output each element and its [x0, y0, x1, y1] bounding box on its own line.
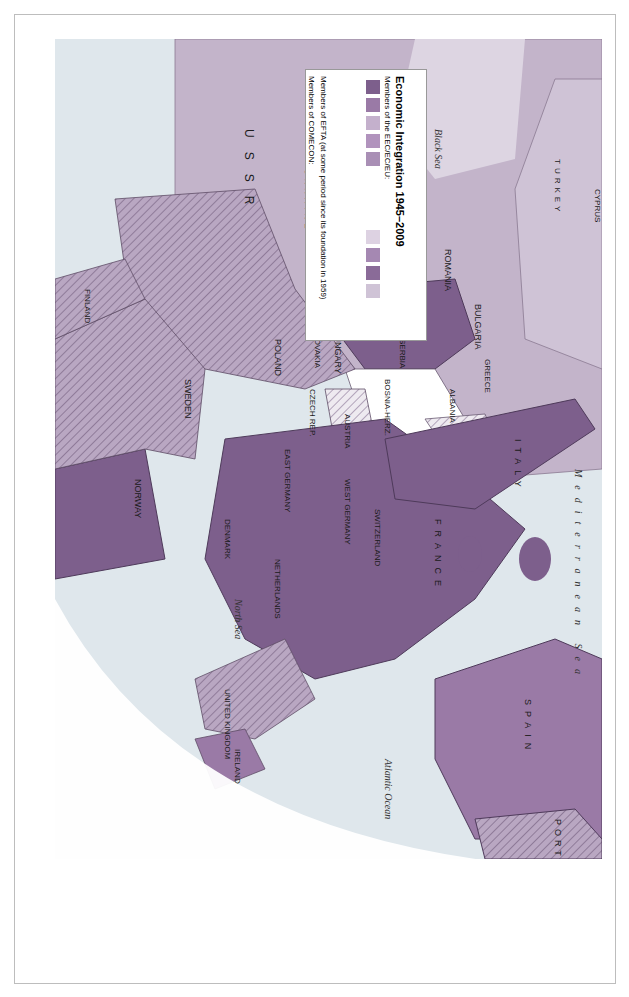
swatch-1981	[366, 116, 380, 130]
svg-text:USSR: USSR	[242, 129, 256, 218]
svg-text:WEST GERMANY: WEST GERMANY	[343, 479, 352, 545]
svg-text:PORTUGAL: PORTUGAL	[553, 819, 563, 859]
svg-text:Atlantic Ocean: Atlantic Ocean	[383, 758, 394, 819]
swatch-candidate	[366, 284, 380, 298]
svg-text:FINLAND: FINLAND	[83, 289, 92, 323]
svg-text:IRELAND: IRELAND	[233, 749, 242, 784]
svg-text:NETHERLANDS: NETHERLANDS	[273, 559, 282, 619]
swatch-2007	[366, 266, 380, 280]
svg-text:BOSNIA-HERZ.: BOSNIA-HERZ.	[383, 379, 392, 436]
svg-text:BULGARIA: BULGARIA	[473, 304, 483, 350]
legend-comecon-header: Members of COMECON:	[307, 76, 316, 336]
svg-text:GREECE: GREECE	[483, 359, 492, 393]
legend-eec-header: Members of the EEC/EC/EU:	[383, 76, 392, 336]
europe-map[interactable]: ROMANIA BULGARIA SERBIA BOSNIA-HERZ. ALB…	[55, 39, 602, 859]
svg-text:EAST GERMANY: EAST GERMANY	[283, 449, 292, 513]
legend-title: Economic Integration 1945–2009	[394, 76, 406, 336]
svg-text:POLAND: POLAND	[273, 339, 283, 377]
svg-text:DENMARK: DENMARK	[223, 519, 232, 560]
svg-text:ALBANIA: ALBANIA	[448, 389, 457, 423]
svg-text:SPAIN: SPAIN	[523, 699, 533, 755]
svg-text:ROMANIA: ROMANIA	[443, 249, 453, 291]
svg-text:Mediterranean Sea: Mediterranean Sea	[573, 468, 584, 682]
legend-efta: Members of EFTA (at some period since it…	[319, 76, 328, 336]
swatch-1995	[366, 230, 380, 244]
svg-text:SERBIA: SERBIA	[398, 339, 407, 369]
svg-text:UNITED KINGDOM: UNITED KINGDOM	[223, 689, 232, 760]
swatch-1973	[366, 98, 380, 112]
svg-text:ITALY: ITALY	[513, 439, 523, 493]
svg-text:AUSTRIA: AUSTRIA	[343, 414, 352, 449]
svg-text:Black Sea: Black Sea	[433, 129, 444, 169]
svg-text:North Sea: North Sea	[233, 598, 244, 639]
map-frame: ROMANIA BULGARIA SERBIA BOSNIA-HERZ. ALB…	[14, 14, 616, 984]
svg-text:NORWAY: NORWAY	[133, 479, 143, 518]
svg-text:SWEDEN: SWEDEN	[183, 379, 193, 419]
norway	[55, 449, 165, 579]
legend: Economic Integration 1945–2009 Members o…	[305, 69, 427, 341]
svg-text:FRANCE: FRANCE	[433, 519, 443, 592]
svg-text:SWITZERLAND: SWITZERLAND	[373, 509, 382, 567]
swatch-1957	[366, 80, 380, 94]
svg-text:CZECH REP.: CZECH REP.	[308, 389, 317, 436]
swatch-1986	[366, 134, 380, 148]
sardinia	[519, 537, 551, 581]
swatch-2004	[366, 248, 380, 262]
swatch-1990	[366, 152, 380, 166]
svg-text:TURKEY: TURKEY	[553, 159, 562, 215]
corsica	[458, 536, 482, 572]
svg-text:CYPRUS: CYPRUS	[593, 189, 602, 222]
